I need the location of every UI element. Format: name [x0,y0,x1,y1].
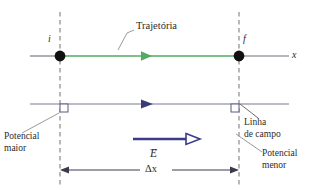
displacement-left-arrowhead [60,167,69,174]
e-field-vector-arrowhead [186,134,200,145]
displacement-right-arrowhead [230,167,239,174]
potential-lower-label-line2: menor [262,160,286,171]
initial-point-label: i [48,33,51,44]
left-right-angle-marker [60,104,68,112]
potential-higher-label-line2: maior [4,143,26,154]
x-axis-label: x [292,49,296,60]
field-line-label-leader [240,104,258,118]
potential-higher-label-line1: Potencial [4,131,39,142]
trajectory-label: Trajetória [136,20,177,32]
vector-arrow-overbar-icon [150,147,157,152]
physics-diagram-figure: i f x Trajetória Potencial maior Linha d… [0,0,319,190]
displacement-label: Δx [145,163,157,175]
right-right-angle-marker [231,104,239,112]
field-line-arrowhead [141,99,153,108]
potential-higher-leader [22,113,59,133]
e-field-vector-label: E [150,147,157,159]
trajectory-label-leader [118,30,134,50]
final-point-label: f [243,33,246,44]
initial-point-dot [55,51,66,62]
potential-lower-label-line1: Potencial [262,148,297,159]
field-line-label-line1: Linha [244,117,266,128]
field-line-label-line2: de campo [244,129,281,140]
trajectory-arrowhead [141,51,152,60]
final-point-dot [234,51,245,62]
